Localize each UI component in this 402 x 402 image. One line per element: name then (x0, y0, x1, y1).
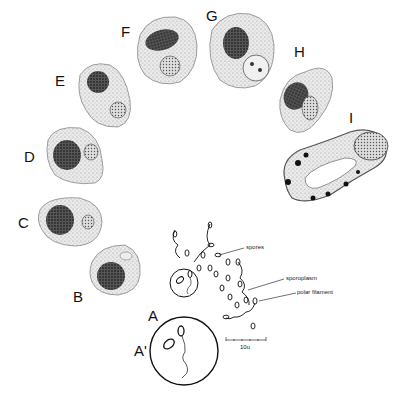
annotation-polar-filament: polar filament (297, 289, 333, 295)
cell-g (210, 13, 274, 88)
label-f: F (121, 23, 130, 40)
annotation-spores: spores (246, 244, 264, 250)
life-cycle-diagram: A A' B C D E F G H I spores sporoplasm p… (0, 0, 402, 402)
cell-i-cyst (284, 130, 388, 201)
diagram-drawing (0, 0, 402, 402)
spores-cluster (173, 222, 257, 329)
cell-c (38, 198, 102, 246)
label-c: C (18, 214, 29, 231)
cell-h (279, 68, 333, 132)
label-a-prime: A' (134, 342, 147, 359)
annotation-sporoplasm: sporoplasm (286, 275, 317, 281)
label-b: B (73, 288, 83, 305)
cell-e (79, 64, 131, 127)
leader-lines (219, 248, 296, 301)
cell-b (90, 245, 140, 295)
spore-large-circle (150, 317, 218, 385)
label-d: D (24, 148, 35, 165)
scale-bar (226, 337, 266, 341)
label-h: H (294, 43, 305, 60)
cell-f (137, 17, 197, 84)
scale-bar-label: 10u (240, 344, 250, 350)
label-g: G (206, 7, 218, 24)
label-e: E (55, 72, 65, 89)
label-i: I (349, 109, 353, 126)
spore-small-circle (170, 269, 198, 297)
label-a: A (148, 307, 158, 324)
cell-d (47, 128, 103, 184)
